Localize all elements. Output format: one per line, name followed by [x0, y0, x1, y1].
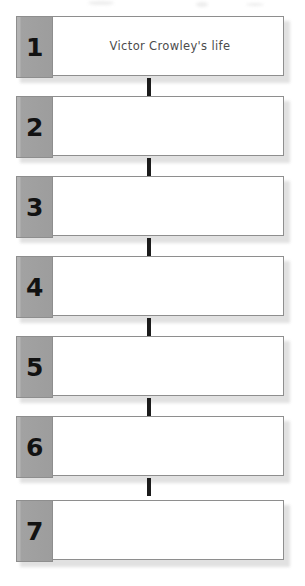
step-panel[interactable] — [16, 416, 284, 476]
step-number: 5 — [26, 355, 43, 380]
step-number: 7 — [26, 519, 43, 544]
step-connector — [147, 158, 151, 176]
step-text[interactable]: Victor Crowley's life — [62, 16, 278, 76]
sequence-chart: 1 Victor Crowley's life 2 3 4 — [0, 0, 305, 586]
step-number-tab: 7 — [16, 500, 53, 562]
step-number-tab: 6 — [16, 416, 53, 478]
step-connector — [147, 238, 151, 256]
scan-smudge — [88, 1, 114, 5]
step-number: 3 — [26, 195, 43, 220]
step-panel[interactable] — [16, 256, 284, 316]
step-number-tab: 4 — [16, 256, 53, 318]
step-connector — [147, 478, 151, 496]
step-number: 1 — [26, 35, 43, 60]
scan-artifact — [0, 0, 305, 12]
step-connector — [147, 78, 151, 96]
step-row[interactable]: 2 — [16, 96, 286, 158]
step-panel[interactable] — [16, 176, 284, 236]
scan-smudge — [246, 3, 264, 6]
step-connector — [147, 398, 151, 416]
step-row[interactable]: 5 — [16, 336, 286, 398]
step-number-tab: 5 — [16, 336, 53, 398]
step-connector — [147, 318, 151, 336]
step-number-tab: 3 — [16, 176, 53, 238]
step-number-tab: 1 — [16, 16, 53, 78]
step-row[interactable]: 6 — [16, 416, 286, 478]
step-number-tab: 2 — [16, 96, 53, 158]
step-number: 6 — [26, 435, 43, 460]
step-row[interactable]: 3 — [16, 176, 286, 238]
step-panel[interactable] — [16, 500, 284, 560]
step-number: 4 — [26, 275, 43, 300]
step-row[interactable]: 7 — [16, 500, 286, 562]
step-number: 2 — [26, 115, 43, 140]
scan-smudge — [196, 2, 208, 7]
step-panel[interactable] — [16, 96, 284, 156]
step-panel[interactable] — [16, 336, 284, 396]
step-row[interactable]: 4 — [16, 256, 286, 318]
step-row[interactable]: 1 Victor Crowley's life — [16, 16, 286, 78]
